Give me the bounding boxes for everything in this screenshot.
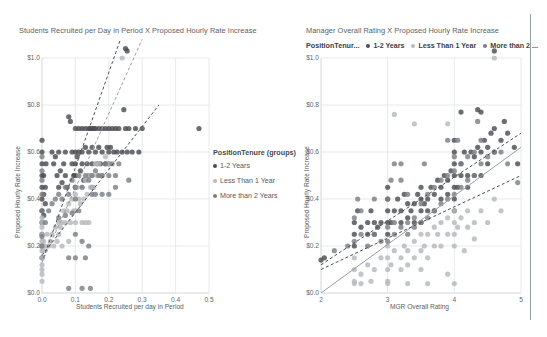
- y-tick-label: $0.0: [299, 289, 319, 296]
- legend-label-right-less-than-1-year: Less Than 1 Year: [418, 42, 476, 50]
- legend-label-more-than-2-years: More than 2 Years: [220, 192, 278, 200]
- y-tick-label: $0.0: [20, 289, 40, 296]
- legend-swatch-icon-1-2-years: [213, 164, 217, 168]
- legend-right-header: PositionTenur...: [306, 41, 359, 50]
- legend-swatch-icon-more-than-2-years: [213, 194, 217, 198]
- x-tick-label: 0.2: [99, 296, 119, 303]
- y-tick-label: $1.0: [20, 54, 40, 61]
- legend-label-right-1-2-years: 1-2 Years: [373, 42, 404, 50]
- legend-left: PositionTenure (groups) 1-2 Years Less T…: [213, 148, 293, 207]
- legend-swatch-icon-right-less-than-1-year: [411, 44, 415, 48]
- legend-label-1-2-years: 1-2 Years: [220, 162, 250, 170]
- x-tick-label: 2: [311, 296, 331, 303]
- panel-divider: [530, 14, 531, 320]
- legend-item-1-2-years[interactable]: 1-2 Years: [213, 162, 293, 170]
- x-axis-title-left: Students Recruited per day in Period: [76, 303, 184, 310]
- y-tick-label: $0.8: [20, 101, 40, 108]
- x-tick-label: 0.3: [132, 296, 152, 303]
- x-tick-label: 5: [511, 296, 531, 303]
- y-tick-label: $0.4: [20, 195, 40, 202]
- chart-panel-students-recruited: Students Recruited per Day in Period X P…: [0, 0, 296, 337]
- x-tick-label: 0.0: [32, 296, 52, 303]
- scatter-svg-right: [321, 58, 521, 293]
- y-axis-title-right: Proposed Hourly Rate Increase: [303, 146, 310, 238]
- x-tick-label: 4: [444, 296, 464, 303]
- plot-area-students-recruited[interactable]: [42, 58, 209, 293]
- legend-item-right-1-2-years[interactable]: 1-2 Years: [366, 42, 404, 50]
- legend-swatch-icon-less-than-1-year: [213, 179, 217, 183]
- legend-swatch-icon-right-1-2-years: [366, 44, 370, 48]
- legend-item-right-less-than-1-year[interactable]: Less Than 1 Year: [411, 42, 476, 50]
- series-1-2-years: [318, 48, 520, 262]
- series-less-than-1-year: [352, 55, 504, 286]
- y-tick-label: $1.0: [299, 54, 319, 61]
- x-tick-label: 0.1: [65, 296, 85, 303]
- legend-left-header: PositionTenure (groups): [213, 148, 293, 157]
- y-tick-label: $0.8: [299, 101, 319, 108]
- dashboard-root: Students Recruited per Day in Period X P…: [0, 0, 547, 337]
- chart-title-students-recruited: Students Recruited per Day in Period X P…: [19, 26, 257, 35]
- plot-area-mgr-rating[interactable]: [321, 58, 521, 293]
- y-tick-label: $0.6: [299, 148, 319, 155]
- chart-title-mgr-rating: Manager Overall Rating X Proposed Hourly…: [306, 26, 499, 35]
- y-tick-label: $0.6: [20, 148, 40, 155]
- x-tick-label: 3: [378, 296, 398, 303]
- x-tick-label: 0.5: [199, 296, 219, 303]
- legend-label-less-than-1-year: Less Than 1 Year: [220, 177, 275, 185]
- y-tick-label: $0.2: [20, 242, 40, 249]
- y-axis-title-left: Proposed Hourly Rate Increase: [14, 146, 21, 238]
- y-tick-label: $0.2: [299, 242, 319, 249]
- x-axis-title-right: MGR Overall Rating: [390, 303, 449, 310]
- legend-right: PositionTenur... 1-2 Years Less Than 1 Y…: [306, 41, 545, 50]
- legend-item-less-than-1-year[interactable]: Less Than 1 Year: [213, 177, 293, 185]
- legend-swatch-icon-right-more-than-2-years: [483, 44, 487, 48]
- legend-item-more-than-2-years[interactable]: More than 2 Years: [213, 192, 293, 200]
- x-tick-label: 0.4: [166, 296, 186, 303]
- y-tick-label: $0.4: [299, 195, 319, 202]
- scatter-svg-left: [42, 58, 209, 293]
